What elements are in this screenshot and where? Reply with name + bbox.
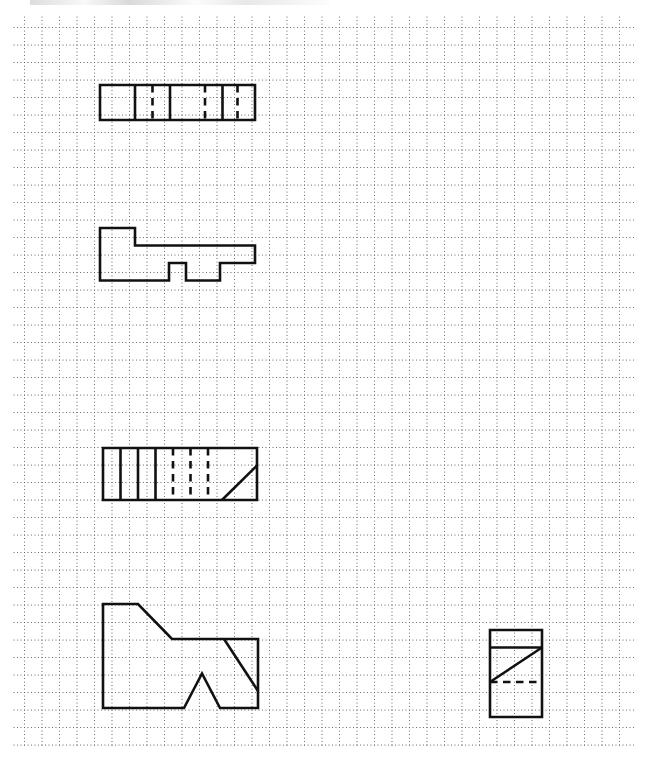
grid-column-dots [461, 16, 462, 745]
grid-column-dots [286, 16, 287, 745]
grid-column-dots [426, 16, 427, 745]
grid-column-dots [234, 16, 235, 745]
grid-column-dots [444, 16, 445, 745]
grid-column-dots [391, 16, 392, 745]
grid-column-dots [41, 16, 42, 745]
grid-column-dots [199, 16, 200, 745]
grid-column-dots [164, 16, 165, 745]
grid-column-dots [59, 16, 60, 745]
grid-column-dots [216, 16, 217, 745]
grid-column-dots [584, 16, 585, 745]
worksheet-canvas [0, 0, 657, 776]
grid-column-dots [24, 16, 25, 745]
grid-column-dots [146, 16, 147, 745]
grid-column-dots [496, 16, 497, 745]
grid-column-dots [76, 16, 77, 745]
grid-column-dots [374, 16, 375, 745]
grid-column-dots [181, 16, 182, 745]
grid-column-dots [619, 16, 620, 745]
grid-column-dots [479, 16, 480, 745]
grid-column-dots [304, 16, 305, 745]
grid-column-dots [531, 16, 532, 745]
grid-column-dots [514, 16, 515, 745]
grid-column-dots [129, 16, 130, 745]
grid-column-dots [321, 16, 322, 745]
grid-column-dots [94, 16, 95, 745]
grid-column-dots [601, 16, 602, 745]
grid-column-dots [269, 16, 270, 745]
grid-column-dots [251, 16, 252, 745]
grid-column-dots [356, 16, 357, 745]
paper-background [0, 0, 657, 776]
grid-column-dots [549, 16, 550, 745]
grid-column-dots [409, 16, 410, 745]
grid-column-dots [339, 16, 340, 745]
grid-column-dots [566, 16, 567, 745]
worksheet-page [0, 0, 657, 776]
grid-column-dots [111, 16, 112, 745]
